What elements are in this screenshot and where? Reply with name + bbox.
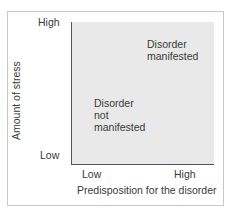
- x-axis-label: Predisposition for the disorder: [77, 184, 217, 196]
- region-disorder-manifested: Disorder manifested: [147, 38, 198, 62]
- y-low-label: Low: [40, 149, 59, 161]
- region-line: manifested: [147, 50, 198, 62]
- region-disorder-not-manifested: Disorder not manifested: [94, 97, 145, 133]
- x-low-label: Low: [82, 168, 101, 180]
- region-line: manifested: [94, 121, 145, 133]
- region-line: Disorder: [94, 97, 145, 109]
- region-line: not: [94, 109, 145, 121]
- region-line: Disorder: [147, 38, 198, 50]
- x-high-label: High: [174, 168, 196, 180]
- y-axis-label: Amount of stress: [10, 61, 22, 140]
- y-high-label: High: [38, 16, 60, 28]
